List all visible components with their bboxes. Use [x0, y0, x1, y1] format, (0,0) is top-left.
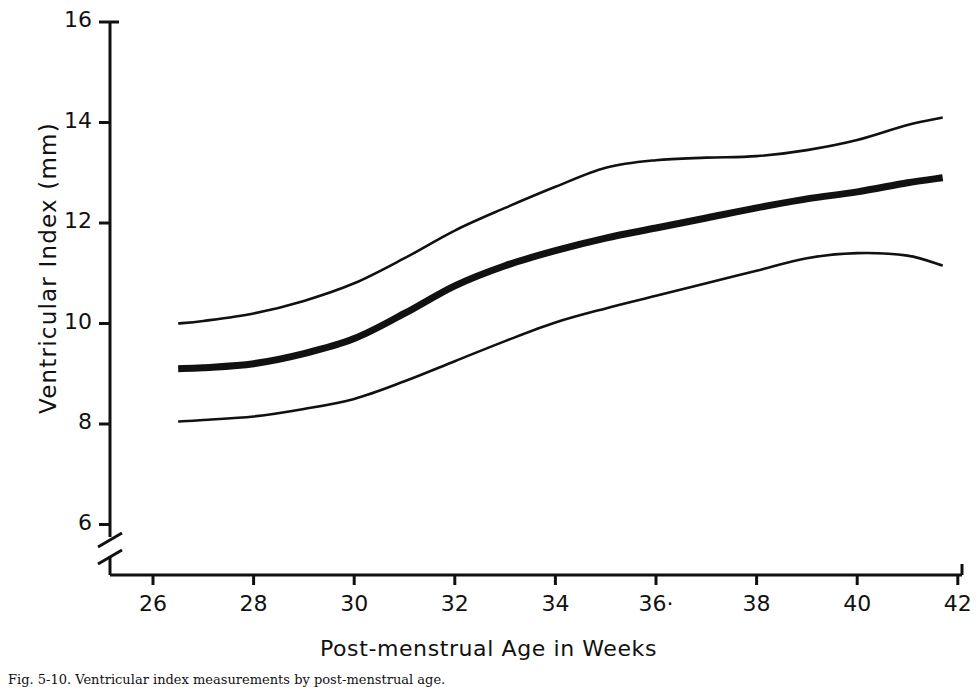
x-tick-label-28: 28 — [231, 591, 277, 616]
y-tick-label-12: 12 — [52, 208, 92, 233]
axis-lines — [98, 22, 962, 575]
x-tick-label-32: 32 — [432, 591, 478, 616]
y-tick-label-10: 10 — [52, 309, 92, 334]
tick-marks — [99, 22, 958, 585]
curve-2 — [178, 253, 943, 421]
x-tick-label-42: 42 — [935, 591, 977, 616]
y-tick-label-14: 14 — [52, 108, 92, 133]
figure-caption: Fig. 5-10. Ventricular index measurement… — [8, 672, 968, 687]
data-curves — [178, 117, 943, 421]
y-tick-label-8: 8 — [52, 409, 92, 434]
x-tick-label-30: 30 — [331, 591, 377, 616]
x-tick-label-36: 36· — [633, 591, 679, 616]
y-tick-label-6: 6 — [52, 510, 92, 535]
x-tick-label-40: 40 — [834, 591, 880, 616]
x-tick-label-26: 26 — [130, 591, 176, 616]
x-tick-label-38: 38 — [734, 591, 780, 616]
curve-0 — [178, 117, 943, 323]
x-axis-label: Post-menstrual Age in Weeks — [0, 636, 977, 661]
curve-1 — [178, 178, 943, 369]
x-tick-label-34: 34 — [532, 591, 578, 616]
y-tick-label-16: 16 — [52, 7, 92, 32]
